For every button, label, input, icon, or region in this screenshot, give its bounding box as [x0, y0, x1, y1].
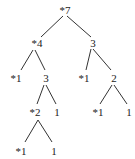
tree-edge [114, 85, 127, 104]
tree-node: 1 [126, 107, 132, 118]
tree-node: 3 [90, 38, 96, 49]
tree-node: 2 [111, 73, 117, 84]
tree-node: *4 [32, 38, 43, 49]
tree-node: *1 [93, 107, 104, 118]
tree-edge [35, 50, 45, 70]
tree-edge [25, 120, 38, 142]
tree-node: *2 [30, 107, 41, 118]
tree-edge [41, 16, 63, 37]
tree-node-root: *7 [60, 5, 71, 16]
tree-node: *1 [16, 146, 27, 157]
tree-node: 1 [54, 107, 60, 118]
tree-node: *1 [79, 73, 90, 84]
tree-edge [38, 120, 52, 142]
tree-edge [86, 49, 91, 70]
tree-node: *1 [11, 73, 22, 84]
tree-edge [37, 85, 44, 104]
tree-edge [67, 16, 91, 37]
tree-edge [46, 85, 56, 104]
tree-edge [93, 49, 111, 70]
tree-edge [100, 85, 112, 104]
tree-node: 1 [51, 146, 57, 157]
tree-edge [21, 50, 33, 70]
tree-node: 3 [43, 73, 49, 84]
